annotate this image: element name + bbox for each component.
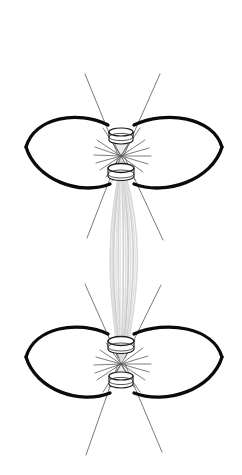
interpolar-spindle-fiber — [120, 172, 121, 345]
spindle-diagram-canvas: Mitotic spindle with two centrosomes — [0, 0, 242, 475]
mitotic-spindle-figure: Mitotic spindle with two centrosomes — [0, 0, 242, 475]
lower-pole-centriole-b — [109, 372, 133, 388]
lower-pole-centriole-a — [108, 337, 134, 354]
upper-pole-centriole-b — [108, 164, 134, 181]
upper-pole-centriole-a — [109, 128, 133, 144]
